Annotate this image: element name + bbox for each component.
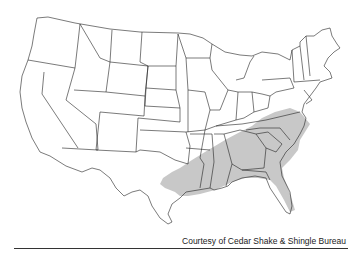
map-caption: Courtesy of Cedar Shake & Shingle Bureau — [182, 236, 346, 246]
divider — [14, 248, 348, 249]
us-map — [0, 0, 356, 230]
shaded-region — [160, 108, 310, 212]
